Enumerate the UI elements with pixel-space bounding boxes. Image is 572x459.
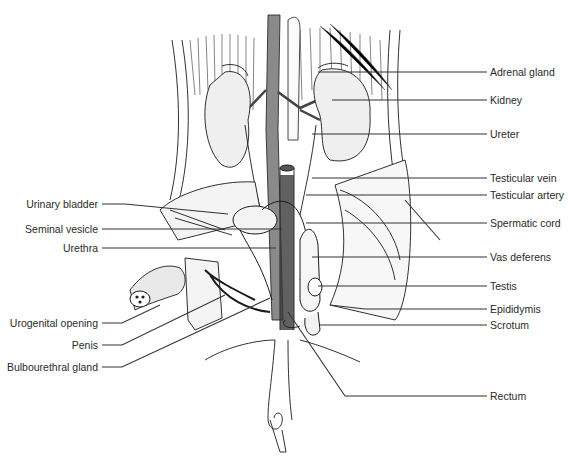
kidney-right-drawing [314, 63, 370, 161]
label-vas-deferens: Vas deferens [490, 251, 551, 263]
penis-drawing [130, 258, 270, 330]
label-scrotum: Scrotum [490, 319, 529, 331]
label-urethra: Urethra [63, 242, 98, 254]
abdominal-flap-right [330, 160, 411, 320]
label-ureter: Ureter [490, 128, 519, 140]
anatomy-diagram: Adrenal gland Kidney Ureter Testicular v… [0, 0, 572, 459]
label-penis: Penis [72, 339, 98, 351]
label-testicular-vein: Testicular vein [490, 172, 557, 184]
label-testis: Testis [490, 280, 517, 292]
label-kidney: Kidney [490, 94, 522, 106]
label-spermatic-cord: Spermatic cord [490, 217, 561, 229]
testis-drawing [300, 229, 322, 335]
label-urogenital-opening: Urogenital opening [10, 317, 98, 329]
label-testicular-artery: Testicular artery [490, 189, 564, 201]
label-epididymis: Epididymis [490, 303, 541, 315]
tail-outline [205, 320, 360, 452]
label-urinary-bladder: Urinary bladder [26, 198, 98, 210]
label-seminal-vesicle: Seminal vesicle [25, 223, 98, 235]
rectum-tube [280, 165, 294, 330]
kidney-left-drawing [205, 64, 250, 167]
label-adrenal-gland: Adrenal gland [490, 66, 555, 78]
label-rectum: Rectum [490, 390, 526, 402]
label-bulbourethral-gland: Bulbourethral gland [7, 361, 98, 373]
